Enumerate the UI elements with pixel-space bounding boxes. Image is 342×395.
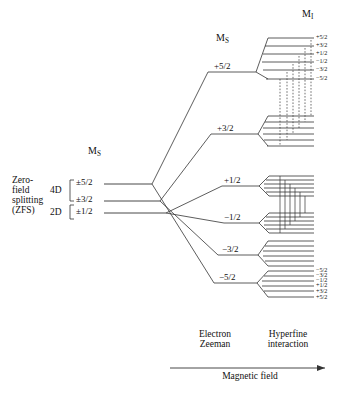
- ms-header-zeeman-subscript: S: [225, 37, 229, 45]
- zeeman-label-minus-5-2: −5/2: [219, 273, 236, 282]
- bracket-label-4d: 4D: [50, 186, 62, 196]
- axis-column-hyperfine-interaction: Hyperfine interaction: [253, 330, 323, 350]
- zfs-level-label-3-2: ±3/2: [76, 195, 92, 204]
- transition-lines-solid: [280, 176, 305, 233]
- mi-header: MI: [302, 9, 313, 22]
- mi-label-top-4: −1/2: [316, 58, 327, 65]
- zeeman-branch-down-3-2: [160, 201, 218, 255]
- zeeman-label-minus-1-2: −1/2: [224, 213, 241, 222]
- electron-zeeman-line2: Zeeman: [185, 340, 245, 350]
- magnetic-field-axis-label: Magnetic field: [195, 372, 305, 382]
- hyperfine-group-minus-5-2: [257, 271, 314, 297]
- axis-column-electron-zeeman: Electron Zeeman: [185, 330, 245, 350]
- zfs-label: Zero- field splitting (ZFS): [12, 176, 43, 216]
- mi-label-top-5: −3/2: [316, 66, 327, 73]
- zeeman-label-plus-1-2: +1/2: [224, 176, 241, 185]
- zeeman-branch-up-1-2: [166, 186, 222, 213]
- ms-header-zeeman: MS: [216, 33, 229, 46]
- hyperfine-group-minus-1-2: [259, 213, 314, 233]
- bracket-2d: [70, 205, 74, 219]
- zfs-level-label-1-2: ±1/2: [76, 207, 92, 216]
- zeeman-label-minus-3-2: −3/2: [222, 245, 239, 254]
- ms-header-left-subscript: S: [97, 150, 101, 158]
- zeeman-label-plus-3-2: +3/2: [217, 124, 234, 133]
- zeeman-label-plus-5-2: +5/2: [214, 62, 231, 71]
- ms-header-left: MS: [88, 146, 101, 159]
- mi-label-top-2: +3/2: [316, 42, 327, 49]
- zeeman-branch-up-5-2: [152, 72, 208, 184]
- mi-header-letter: M: [302, 8, 311, 19]
- zfs-label-line4: (ZFS): [12, 206, 43, 216]
- bracket-4d: [70, 180, 74, 201]
- bracket-label-2d: 2D: [50, 208, 62, 218]
- hyperfine-group-plus-3-2: [258, 116, 314, 146]
- hyperfine-line2: interaction: [253, 340, 323, 350]
- figure-canvas: Zero- field splitting (ZFS) 4D 2D MS ±5/…: [0, 0, 342, 395]
- mi-label-top-6: −5/2: [316, 75, 327, 82]
- transition-lines-dashed: [280, 40, 311, 146]
- zeeman-branch-down-1-2: [166, 213, 224, 223]
- ms-header-zeeman-letter: M: [216, 32, 225, 43]
- mi-header-subscript: I: [311, 13, 313, 21]
- ms-header-left-letter: M: [88, 145, 97, 156]
- zfs-level-label-5-2: ±5/2: [76, 178, 92, 187]
- mi-label-top-1: +5/2: [316, 34, 327, 41]
- mi-label-top-3: +1/2: [316, 50, 327, 57]
- hyperfine-group-minus-3-2: [258, 241, 314, 266]
- mi-label-bottom-6: +5/2: [316, 294, 327, 301]
- hyperfine-group-plus-1-2: [259, 176, 314, 196]
- zeeman-branch-up-3-2: [160, 134, 211, 201]
